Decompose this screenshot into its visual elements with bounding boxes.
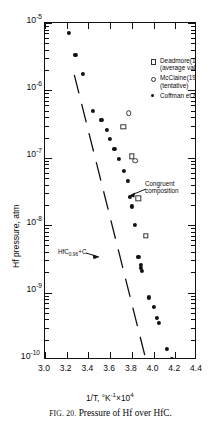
y-tick-minor (45, 245, 49, 246)
y-tick-minor (45, 93, 49, 94)
y-tick-minor (191, 240, 195, 241)
x-title-main: 1/T, °K (86, 393, 111, 403)
y-axis-title: Hf pressure, atm (11, 204, 21, 268)
x-axis-title: 1/T, °K-1×104 (86, 391, 134, 403)
y-tick-minor (45, 30, 49, 31)
x-tick (175, 23, 176, 29)
plot-inner: Deadmore(1965) (average values) McClaine… (45, 23, 195, 358)
x-tick (132, 352, 133, 358)
y-tick-minor (45, 193, 49, 194)
y-tick-minor (45, 58, 49, 59)
x-tick (110, 352, 111, 358)
x-tick (154, 23, 155, 29)
y-tick-major (45, 225, 52, 226)
y-tick-minor (45, 252, 49, 253)
y-tick-major (45, 158, 52, 159)
y-tick-minor (45, 43, 49, 44)
y-tick-exp: -5 (36, 13, 42, 20)
y-tick-minor (45, 101, 49, 102)
y-tick-minor (191, 161, 195, 162)
y-tick-major (188, 293, 195, 294)
figure-number: FIG. 20. (49, 409, 76, 418)
y-tick-minor (191, 138, 195, 139)
plot-area: Deadmore(1965) (average values) McClaine… (44, 22, 196, 359)
y-tick-exp: -9 (36, 282, 42, 289)
y-tick-label-1e-8: 10-8 (0, 215, 42, 227)
data-point (143, 233, 148, 238)
y-tick-minor (45, 272, 49, 273)
y-tick-minor (45, 38, 49, 39)
y-tick-exp: -8 (36, 215, 42, 222)
legend-entry-deadmore[interactable]: Deadmore(1965) (average values) (151, 57, 195, 72)
y-tick-minor (45, 173, 49, 174)
y-tick-label-1e-10: 10-10 (0, 349, 40, 361)
y-tick-minor (191, 272, 195, 273)
y-tick-minor (45, 97, 49, 98)
legend-label-line2: (tentative) (160, 82, 195, 89)
y-tick-minor (191, 38, 195, 39)
y-tick-minor (191, 50, 195, 51)
legend-label-line1: Coffman et al.(1963) (160, 92, 195, 99)
x-tick (67, 352, 68, 358)
y-tick-minor (191, 313, 195, 314)
caption-text: Pressure of Hf over HfC. (79, 408, 172, 418)
x-tick (110, 23, 111, 29)
y-tick-minor (45, 105, 49, 106)
y-tick-minor (191, 205, 195, 206)
annotation-line2: composition (145, 187, 179, 194)
y-tick-minor (45, 240, 49, 241)
y-tick-minor (191, 245, 195, 246)
y-tick-minor (45, 70, 49, 71)
data-point (136, 196, 141, 201)
y-tick-minor (191, 232, 195, 233)
y-tick-minor (191, 303, 195, 304)
y-tick-minor (191, 33, 195, 34)
y-tick-minor (191, 117, 195, 118)
y-tick-minor (45, 117, 49, 118)
x-title-mid: ×10 (116, 393, 130, 403)
y-tick-minor (191, 185, 195, 186)
y-tick-minor (45, 260, 49, 261)
y-tick-minor (191, 26, 195, 27)
y-tick-minor (191, 173, 195, 174)
y-tick-minor (45, 228, 49, 229)
y-tick-minor (45, 185, 49, 186)
y-tick-minor (191, 319, 195, 320)
y-tick-label-1e-5: 10-5 (0, 13, 42, 25)
y-tick-exp: -7 (36, 147, 42, 154)
figure-container: Hf pressure, atm 10-5 10-6 10-7 10-8 10-… (0, 0, 221, 429)
y-tick-minor (45, 236, 49, 237)
y-tick-minor (191, 252, 195, 253)
legend-entry-coffman[interactable]: Coffman et al.(1963) (151, 92, 195, 99)
data-point (126, 110, 132, 116)
x-tick-label: 4.4 (181, 363, 211, 373)
y-tick-minor (45, 168, 49, 169)
x-tick (88, 23, 89, 29)
annotation-tail: +C (78, 248, 86, 255)
y-tick-minor (45, 319, 49, 320)
y-tick-label-1e-7: 10-7 (0, 147, 42, 159)
y-tick-minor (45, 111, 49, 112)
annotation-congruent-composition: Congruent composition (145, 180, 179, 194)
annotation-subscript: 0.96 (69, 252, 78, 257)
y-tick-minor (191, 43, 195, 44)
annotation-compound: HfC (58, 248, 69, 255)
legend-entry-mcclaine[interactable]: McClaine(1964) (tentative) (151, 74, 195, 89)
y-tick-minor (191, 30, 195, 31)
y-tick-minor (45, 138, 49, 139)
reference-dashed-line (74, 75, 146, 358)
y-tick-minor (191, 228, 195, 229)
y-tick-minor (45, 164, 49, 165)
data-point (170, 356, 174, 358)
y-tick-minor (45, 205, 49, 206)
y-tick-minor (191, 105, 195, 106)
y-tick-minor (191, 340, 195, 341)
legend-label-line1: Deadmore(1965) (160, 57, 195, 64)
y-tick-minor (191, 126, 195, 127)
data-point (120, 124, 125, 129)
y-tick-major (45, 23, 52, 24)
legend-label-line2: (average values) (160, 64, 195, 71)
y-tick-minor (45, 178, 49, 179)
y-tick-major (45, 90, 52, 91)
y-tick-major (188, 158, 195, 159)
